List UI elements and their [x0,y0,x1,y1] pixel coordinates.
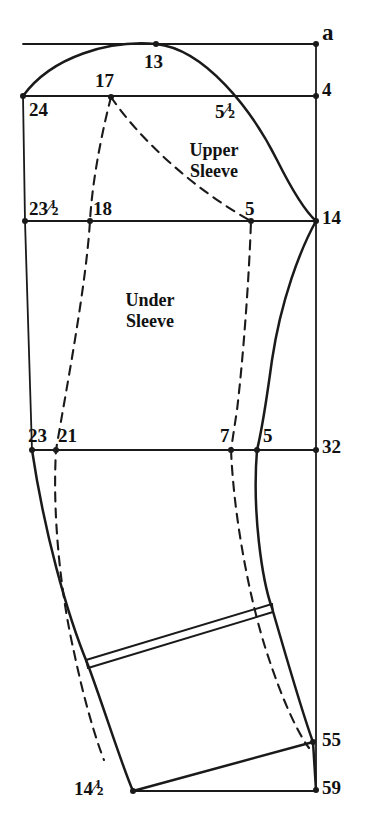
outline-right-under-curve [257,221,316,450]
point-label-5half: 51⁄2 [215,102,236,121]
construction-lines-group [23,44,316,791]
point-label-55: 55 [322,730,341,749]
vertex-dot-v-7 [228,447,234,453]
vertex-dot-v-13 [153,41,159,47]
vertex-dot-v-24 [20,93,26,99]
region-label-upper-sleeve: UpperSleeve [174,140,254,181]
vertex-dot-v-23 [29,447,35,453]
region-label-line2: Sleeve [174,161,254,182]
region-label-under-sleeve: UnderSleeve [110,290,190,331]
vertex-dot-v-4 [313,93,319,99]
point-label-17: 17 [95,71,114,90]
point-label-a: a [322,21,334,44]
vertex-dot-v-5low [254,447,260,453]
point-label-13: 13 [144,52,163,71]
region-label-line1: Under [110,290,190,311]
vertex-dot-v-14 [313,218,319,224]
point-label-18: 18 [93,199,112,218]
point-label-32: 32 [322,437,341,456]
vertex-dot-v-17 [108,94,114,100]
vertex-dot-v-14half [130,788,136,794]
point-label-14half: 141⁄2 [74,779,104,798]
point-label-4: 4 [322,80,332,99]
region-label-line1: Upper [174,140,254,161]
vertex-dot-v-a [313,41,319,47]
point-label-24: 24 [29,100,48,119]
point-label-5-mid: 5 [245,199,255,218]
cuff-cuff-right-cap [272,604,273,612]
point-label-59: 59 [322,778,341,797]
cuff-cuff-bottom-line [88,612,273,668]
cuff-band-group [86,604,273,668]
outline-hem-line [133,742,313,791]
vertex-dot-v-59 [313,787,319,793]
point-label-14: 14 [322,208,341,227]
vertex-dot-v-55 [310,739,316,745]
vertex-dot-v-32 [313,447,319,453]
point-label-21: 21 [58,426,77,445]
point-label-5-low: 5 [263,426,273,445]
vertex-dot-v-21 [53,447,59,453]
construction-line-left-under-edge [25,221,32,450]
point-label-23half: 231⁄2 [29,199,59,218]
outline-left-lower-curve [32,450,133,791]
solid-outline-group [23,43,316,791]
outline-sleeve-head-curve [23,43,316,221]
pattern-drawing [0,0,368,818]
cuff-cuff-top-line [86,604,272,660]
sleeve-pattern-figure: a134172451⁄2231⁄218514232175325559141⁄2 … [0,0,368,818]
vertex-dot-v-23half [22,218,28,224]
construction-line-left-upper-edge [23,96,25,221]
outline-right-lower-curve [256,450,313,742]
point-label-23: 23 [28,426,47,445]
point-label-7: 7 [220,426,230,445]
region-label-line2: Sleeve [110,311,190,332]
